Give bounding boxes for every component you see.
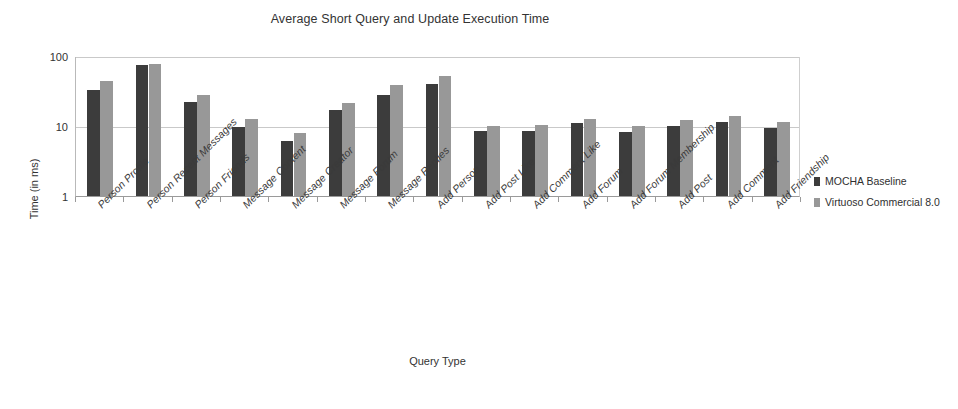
bar [377,95,390,196]
x-tick-mark [752,197,753,202]
bar [716,122,729,196]
legend-item: Virtuoso Commercial 8.0 [814,196,954,208]
bar [184,102,197,196]
x-tick-mark [317,197,318,202]
legend-swatch-icon [814,177,820,186]
x-axis-category-labels: Person ProfilePerson Recent MessagesPers… [75,202,800,322]
legend-item: MOCHA Baseline [814,175,954,187]
x-tick-mark [365,197,366,202]
bar [149,64,162,196]
x-tick-mark [655,197,656,202]
bar [619,132,632,196]
x-tick-mark [510,197,511,202]
y-axis-tick-labels: 100101 [38,57,68,197]
x-tick-mark [413,197,414,202]
x-tick-mark [123,197,124,202]
bar [390,85,403,196]
legend-label: MOCHA Baseline [825,175,907,187]
gridline-100 [76,57,799,58]
y-tick-label: 10 [40,121,68,133]
x-tick-mark [800,197,801,202]
x-tick-mark [558,197,559,202]
bar [87,90,100,196]
x-tick-mark [703,197,704,202]
bar [439,76,452,196]
bar [729,116,742,196]
legend-label: Virtuoso Commercial 8.0 [825,196,940,208]
bar [474,131,487,196]
x-tick-mark [268,197,269,202]
x-tick-mark [75,197,76,202]
chart-legend: MOCHA BaselineVirtuoso Commercial 8.0 [814,175,954,217]
chart-title: Average Short Query and Update Execution… [0,12,820,26]
legend-swatch-icon [814,198,820,207]
bar [100,81,113,196]
bar [426,84,439,196]
x-axis-title: Query Type [75,355,800,367]
chart-container: Average Short Query and Update Execution… [0,0,958,409]
x-tick-mark [172,197,173,202]
x-tick-mark [462,197,463,202]
x-tick-mark [607,197,608,202]
y-tick-label: 1 [40,191,68,203]
y-tick-label: 100 [40,51,68,63]
x-tick-mark [220,197,221,202]
